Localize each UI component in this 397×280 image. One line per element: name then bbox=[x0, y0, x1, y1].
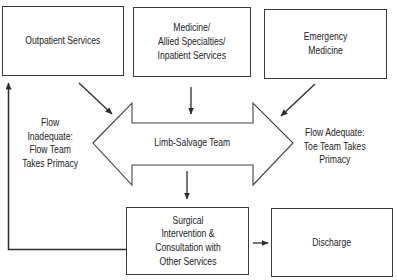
node-label: Limb-Salvage Team bbox=[155, 136, 231, 150]
node-label-line: Limb-Salvage Team bbox=[155, 136, 231, 150]
node-label-line: Other Services bbox=[159, 255, 216, 269]
node-outpatient-services: Outpatient Services bbox=[2, 6, 124, 76]
node-label-line: Medicine/ bbox=[174, 21, 211, 35]
annotation-line: Inadequate: bbox=[27, 130, 72, 144]
node-label-line: Surgical bbox=[172, 214, 203, 228]
node-label-line: Discharge bbox=[313, 236, 352, 250]
annotation-text: Flow Inadequate: Flow Team Takes Primacy bbox=[22, 116, 78, 171]
node-label: Discharge bbox=[313, 236, 352, 250]
arrow-outpatient-to-limb-salvage bbox=[79, 83, 112, 114]
node-surgical-intervention: Surgical Intervention & Consultation wit… bbox=[126, 207, 249, 275]
annotation-flow-inadequate: Flow Inadequate: Flow Team Takes Primacy bbox=[0, 116, 100, 171]
annotation-line: Takes Primacy bbox=[22, 157, 78, 171]
flow-diagram: Outpatient Services Medicine/ Allied Spe… bbox=[0, 0, 397, 280]
node-label: Medicine/ Allied Specialties/ Inpatient … bbox=[158, 21, 226, 62]
annotation-line: Flow Adequate: bbox=[305, 126, 364, 140]
node-label-line: Medicine bbox=[308, 44, 342, 58]
node-medicine-allied-inpatient: Medicine/ Allied Specialties/ Inpatient … bbox=[133, 7, 251, 77]
annotation-line: Flow bbox=[41, 116, 59, 130]
node-limb-salvage-team: Limb-Salvage Team bbox=[132, 136, 253, 150]
annotation-flow-adequate: Flow Adequate: Toe Team Takes Primacy bbox=[285, 126, 385, 167]
node-label: Outpatient Services bbox=[25, 34, 100, 48]
annotation-text: Flow Adequate: Toe Team Takes Primacy bbox=[304, 126, 366, 167]
node-label-line: Consultation with bbox=[155, 241, 221, 255]
node-label-line: Emergency bbox=[304, 30, 348, 44]
node-emergency-medicine: Emergency Medicine bbox=[264, 9, 387, 79]
annotation-line: Primacy bbox=[319, 153, 350, 167]
node-label-line: Allied Specialties/ bbox=[158, 35, 225, 49]
annotation-line: Toe Team Takes bbox=[304, 140, 366, 154]
node-label: Emergency Medicine bbox=[304, 30, 348, 57]
node-discharge: Discharge bbox=[271, 208, 393, 277]
node-label-line: Inpatient Services bbox=[158, 49, 226, 63]
node-label: Surgical Intervention & Consultation wit… bbox=[155, 214, 221, 269]
node-label-line: Intervention & bbox=[161, 227, 214, 241]
annotation-line: Flow Team bbox=[29, 143, 70, 157]
arrow-emergency-to-limb-salvage bbox=[281, 84, 315, 116]
node-label-line: Outpatient Services bbox=[25, 34, 100, 48]
